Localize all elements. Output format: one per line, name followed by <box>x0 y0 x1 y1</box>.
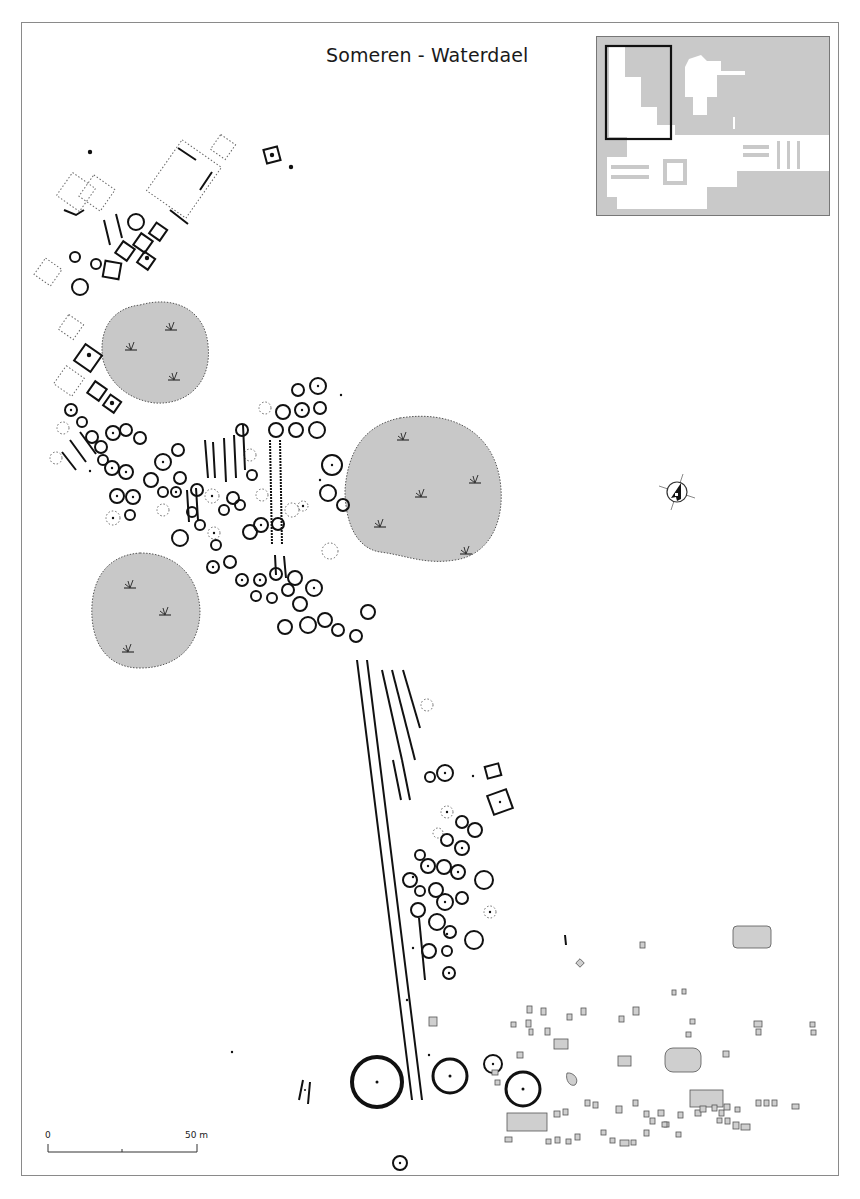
north-arrow-icon <box>655 470 699 514</box>
large-barrows-south <box>299 935 566 1170</box>
grass-area-1 <box>102 302 208 403</box>
north-arrow <box>655 470 699 514</box>
ring-ditch-centres <box>70 385 342 589</box>
ring-ditch-cluster-south <box>403 699 513 979</box>
grass-area-2 <box>345 416 501 561</box>
pit-features-se <box>429 926 816 1146</box>
scale-bar: 0 50 m <box>40 1130 220 1160</box>
grass-area-3 <box>92 553 200 668</box>
scale-bar-line <box>40 1130 220 1160</box>
ring-ditch-centres-south <box>231 772 501 1056</box>
long-beds-south <box>357 660 425 1100</box>
site-plan <box>0 0 860 1199</box>
